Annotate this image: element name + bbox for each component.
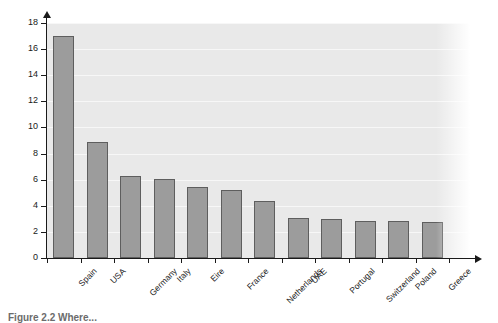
x-axis-tick bbox=[181, 258, 182, 263]
bar-series bbox=[46, 23, 470, 258]
y-axis-tick: 16 bbox=[41, 49, 46, 50]
x-axis-tick bbox=[282, 258, 283, 263]
y-axis-tick-label: 6 bbox=[33, 174, 38, 184]
x-axis-category-label: USA bbox=[108, 266, 127, 285]
y-axis-tick-label: 2 bbox=[33, 226, 38, 236]
x-axis-line bbox=[46, 258, 476, 259]
y-axis-tick-label: 12 bbox=[28, 95, 38, 105]
x-axis-category-label: Spain bbox=[76, 266, 98, 288]
bar bbox=[154, 179, 175, 258]
x-axis-tick bbox=[114, 258, 115, 263]
x-axis-category-label: Italy bbox=[175, 266, 193, 284]
y-axis-tick: 4 bbox=[41, 206, 46, 207]
y-axis-tick: 18 bbox=[41, 23, 46, 24]
x-axis-tick bbox=[215, 258, 216, 263]
x-axis-tick bbox=[47, 258, 48, 263]
bar bbox=[120, 176, 141, 258]
bar bbox=[254, 201, 275, 258]
bar bbox=[321, 219, 342, 258]
bar bbox=[422, 222, 443, 258]
y-axis-tick: 10 bbox=[41, 127, 46, 128]
x-axis-tick bbox=[81, 258, 82, 263]
x-axis-tick bbox=[416, 258, 417, 263]
y-axis-tick: 12 bbox=[41, 101, 46, 102]
x-axis-tick bbox=[449, 258, 450, 263]
bar bbox=[221, 190, 242, 258]
x-axis-category-label: Portugal bbox=[347, 266, 376, 295]
y-axis-tick-label: 14 bbox=[28, 69, 38, 79]
x-axis-arrow-icon bbox=[475, 255, 482, 263]
y-axis-line bbox=[46, 17, 47, 259]
figure-caption: Figure 2.2 Where... bbox=[8, 312, 97, 323]
plot-panel bbox=[46, 23, 470, 258]
y-axis-tick: 0 bbox=[41, 258, 46, 259]
x-axis-category-label: Eire bbox=[208, 266, 226, 284]
x-axis-tick bbox=[148, 258, 149, 263]
x-axis-category-label: France bbox=[245, 266, 271, 292]
y-axis-tick-label: 4 bbox=[33, 200, 38, 210]
y-axis-tick: 14 bbox=[41, 75, 46, 76]
y-axis-tick: 6 bbox=[41, 180, 46, 181]
bar bbox=[53, 36, 74, 258]
x-axis-tick bbox=[382, 258, 383, 263]
y-axis-arrow-icon bbox=[43, 11, 51, 18]
bar bbox=[388, 221, 409, 258]
bar bbox=[355, 221, 376, 258]
x-axis-tick bbox=[349, 258, 350, 263]
x-axis-category-label: Germany bbox=[147, 266, 179, 298]
x-axis-tick bbox=[315, 258, 316, 263]
y-axis-tick: 8 bbox=[41, 154, 46, 155]
y-axis-tick-label: 10 bbox=[28, 121, 38, 131]
bar bbox=[87, 142, 108, 258]
x-axis-category-label: Greece bbox=[446, 266, 473, 293]
y-axis-tick-label: 18 bbox=[28, 17, 38, 27]
y-axis-tick-label: 0 bbox=[33, 252, 38, 262]
x-axis-tick bbox=[248, 258, 249, 263]
y-axis-tick: 2 bbox=[41, 232, 46, 233]
bar bbox=[187, 187, 208, 258]
y-axis-tick-label: 8 bbox=[33, 148, 38, 158]
bar bbox=[288, 218, 309, 259]
y-axis-tick-label: 16 bbox=[28, 43, 38, 53]
